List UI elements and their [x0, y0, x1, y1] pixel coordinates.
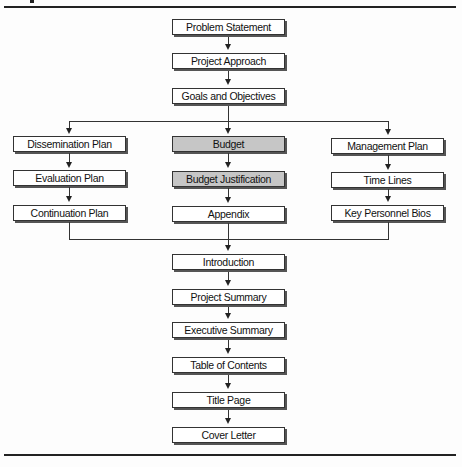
- arrow-down-icon: [225, 245, 231, 251]
- connector: [69, 187, 70, 196]
- connector: [69, 222, 70, 239]
- arrow-down-icon: [225, 128, 231, 134]
- box-project-summary: Project Summary: [172, 289, 285, 305]
- arrow-down-icon: [66, 128, 72, 134]
- connector: [228, 223, 229, 246]
- box-key-personnel-bios: Key Personnel Bios: [331, 205, 444, 221]
- box-cover-letter: Cover Letter: [172, 427, 285, 443]
- connector: [388, 222, 389, 239]
- box-table-of-contents: Table of Contents: [172, 357, 285, 373]
- arrow-down-icon: [66, 196, 72, 202]
- arrow-down-icon: [225, 348, 231, 354]
- branch-merge-line: [69, 239, 389, 240]
- connector: [69, 153, 70, 162]
- box-executive-summary: Executive Summary: [172, 322, 285, 338]
- box-budget: Budget: [172, 136, 285, 152]
- connector: [228, 106, 229, 129]
- arrow-down-icon: [225, 79, 231, 85]
- arrow-down-icon: [225, 44, 231, 50]
- box-management-plan: Management Plan: [331, 138, 444, 154]
- connector: [388, 155, 389, 164]
- arrow-down-icon: [225, 197, 231, 203]
- box-dissemination-plan: Dissemination Plan: [13, 136, 126, 152]
- arrow-down-icon: [225, 162, 231, 168]
- box-project-approach: Project Approach: [172, 53, 285, 69]
- arrow-down-icon: [385, 196, 391, 202]
- grant-proposal-flowchart: Problem Statement Project Approach Goals…: [0, 0, 462, 467]
- box-evaluation-plan: Evaluation Plan: [13, 170, 126, 186]
- cropped-heading-fragment: [30, 0, 34, 3]
- arrow-down-icon: [225, 313, 231, 319]
- connector: [228, 188, 229, 197]
- bottom-rule: [4, 454, 456, 456]
- arrow-down-icon: [385, 129, 391, 135]
- box-goals-objectives: Goals and Objectives: [172, 88, 285, 104]
- branch-split-line: [69, 121, 389, 122]
- arrow-down-icon: [225, 383, 231, 389]
- box-continuation-plan: Continuation Plan: [13, 205, 126, 221]
- box-introduction: Introduction: [172, 254, 285, 270]
- top-rule: [4, 6, 456, 8]
- arrow-down-icon: [225, 418, 231, 424]
- box-title-page: Title Page: [172, 392, 285, 408]
- box-problem-statement: Problem Statement: [172, 19, 285, 35]
- box-budget-justification: Budget Justification: [172, 171, 285, 187]
- box-time-lines: Time Lines: [331, 172, 444, 188]
- arrow-down-icon: [66, 162, 72, 168]
- arrow-down-icon: [225, 280, 231, 286]
- arrow-down-icon: [385, 164, 391, 170]
- box-appendix: Appendix: [172, 206, 285, 222]
- connector: [228, 153, 229, 162]
